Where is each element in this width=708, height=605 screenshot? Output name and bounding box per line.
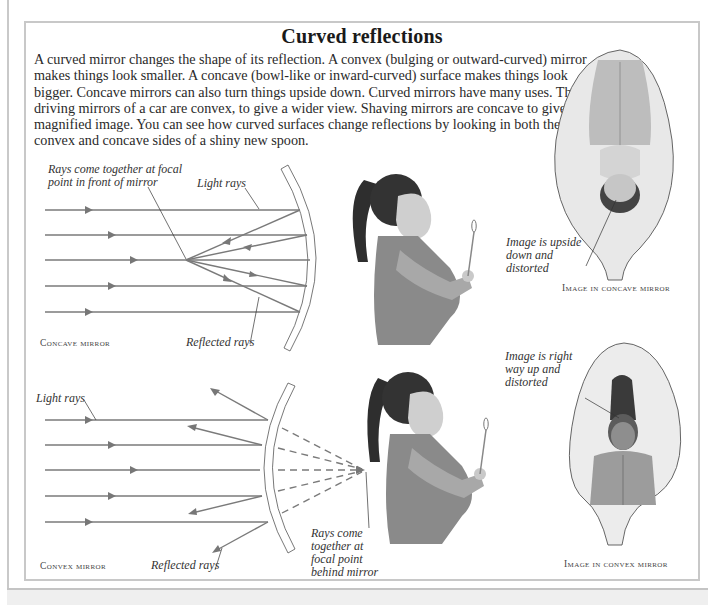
virtual-rays <box>278 428 362 513</box>
label-light-rays-convex: Light rays <box>36 392 85 405</box>
caption-convex-spoon: Image in convex mirror <box>564 559 668 569</box>
label-light-rays-concave: Light rays <box>197 177 246 190</box>
girl-illustration-bottom <box>367 372 488 544</box>
concave-mirror-diagram <box>45 165 316 351</box>
label-focal-front: Rays come together at focal point in fro… <box>48 163 188 189</box>
convex-mirror-shape <box>264 383 295 553</box>
girl-illustration-top <box>353 174 476 345</box>
reflected-rays <box>186 210 307 312</box>
label-upside-down: Image is upside down and distorted <box>506 236 586 275</box>
ray-arrowheads <box>85 206 138 316</box>
concave-mirror-shape <box>281 165 316 351</box>
caption-concave-spoon: Image in concave mirror <box>562 283 670 293</box>
label-reflected-rays-convex: Reflected rays <box>151 559 219 572</box>
label-focal-behind: Rays come together at focal point behind… <box>311 527 381 579</box>
caption-convex-mirror: Convex mirror <box>40 561 106 571</box>
incoming-rays <box>45 210 310 312</box>
convex-spoon-image <box>569 343 680 545</box>
bottom-strip <box>7 588 708 605</box>
label-reflected-rays-concave: Reflected rays <box>186 336 254 349</box>
label-right-way-up: Image is right way up and distorted <box>505 350 585 389</box>
caption-concave-mirror: Concave mirror <box>40 338 110 348</box>
